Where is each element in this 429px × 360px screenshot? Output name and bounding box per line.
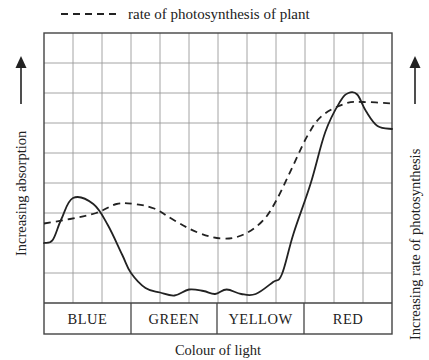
band-label-green: GREEN — [149, 311, 200, 327]
left-y-axis-label: Increasing absorption — [13, 130, 29, 256]
band-label-yellow: YELLOW — [228, 311, 292, 327]
legend: rate of photosynthesis of plant — [61, 6, 310, 22]
right-y-axis-label: Increasing rate of photosynthesis — [407, 148, 423, 340]
up-arrow-icon — [16, 56, 27, 68]
grid — [44, 33, 392, 303]
legend-label: rate of photosynthesis of plant — [128, 6, 310, 22]
band-label-red: RED — [333, 311, 364, 327]
band-label-blue: BLUE — [68, 311, 108, 327]
up-arrow-icon — [410, 56, 421, 68]
colour-bands: BLUE GREEN YELLOW RED — [68, 303, 364, 334]
left-y-axis: Increasing absorption — [13, 56, 29, 256]
chart: rate of photosynthesis of plant BLUE GRE… — [0, 0, 429, 360]
x-axis-label: Colour of light — [175, 342, 261, 358]
right-y-axis: Increasing rate of photosynthesis — [407, 56, 423, 340]
